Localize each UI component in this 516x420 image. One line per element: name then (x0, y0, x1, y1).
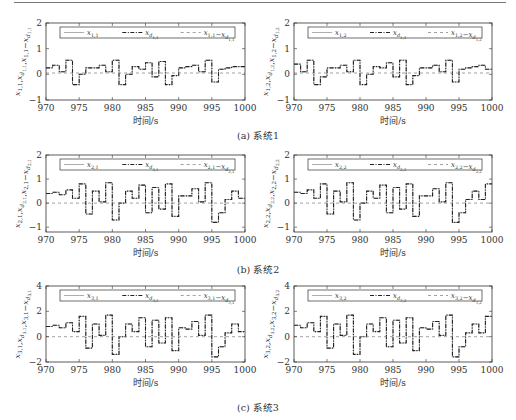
y-tick-label: −2 (277, 357, 290, 367)
x-axis-label: 时间/s (133, 247, 159, 258)
y-tick-label: 0 (284, 332, 290, 342)
y-tick-label: 2 (284, 150, 290, 160)
x-tick-label: 1000 (481, 235, 504, 245)
figure: 9709759809859909951000−1012时间/sx1,1,xd1,… (0, 0, 516, 420)
x-tick-label: 995 (203, 365, 220, 375)
x-tick-label: 985 (384, 103, 401, 113)
x-tick-label: 985 (384, 235, 401, 245)
x-tick-label: 975 (318, 103, 335, 113)
y-tick-label: 1 (284, 174, 290, 184)
y-tick-label: 0 (36, 69, 42, 79)
x-tick-label: 980 (351, 365, 368, 375)
y-axis-label: x3,1,xd3,1,x3,1−xd3,1 (13, 289, 32, 358)
legend: x2,1xd2,1x2,1−xd2,1 (60, 159, 235, 174)
chart-a-right: 9709759809859909951000−1012时间/sx1,2,xd1,… (261, 18, 504, 126)
x-axis-label: 时间/s (380, 377, 406, 388)
x-axis-label: 时间/s (380, 247, 406, 258)
caption-c: (c) 系统3 (0, 400, 516, 414)
x-tick-label: 990 (417, 365, 434, 375)
x-tick-label: 975 (318, 365, 335, 375)
x-tick-label: 985 (384, 365, 401, 375)
y-tick-label: −1 (277, 95, 290, 105)
y-tick-label: 2 (36, 150, 42, 160)
x-tick-label: 990 (417, 103, 434, 113)
legend: x3,2xd3,2x3,2−xd3,2 (308, 290, 482, 305)
x-tick-label: 975 (318, 235, 335, 245)
y-tick-label: 2 (36, 306, 42, 316)
y-tick-label: 2 (284, 306, 290, 316)
y-axis-label: x2,2,xd2,2,x2,2−xd2,2 (261, 159, 280, 228)
y-tick-label: 4 (284, 281, 290, 291)
x-axis-label: 时间/s (380, 115, 406, 126)
x-tick-label: 995 (450, 235, 467, 245)
x-tick-label: 980 (104, 365, 121, 375)
x-tick-label: 990 (170, 103, 187, 113)
series-line (46, 60, 245, 84)
x-tick-label: 970 (285, 235, 302, 245)
y-tick-label: 1 (36, 44, 42, 54)
y-tick-label: 2 (284, 18, 290, 28)
x-tick-label: 1000 (234, 235, 257, 245)
x-tick-label: 995 (203, 235, 220, 245)
y-tick-label: −1 (277, 222, 290, 232)
x-tick-label: 970 (37, 235, 54, 245)
x-tick-label: 985 (137, 365, 154, 375)
x-tick-label: 975 (71, 365, 88, 375)
y-tick-label: 0 (284, 198, 290, 208)
y-tick-label: 0 (36, 332, 42, 342)
x-tick-label: 995 (450, 365, 467, 375)
x-tick-label: 980 (351, 103, 368, 113)
y-tick-label: 1 (284, 44, 290, 54)
y-tick-label: −1 (29, 95, 42, 105)
x-tick-label: 990 (170, 365, 187, 375)
x-tick-label: 1000 (481, 103, 504, 113)
y-tick-label: 4 (36, 281, 42, 291)
legend: x1,2xd1,2x1,2−xd1,2 (308, 27, 482, 42)
y-axis-label: x2,1,xd2,1,x2,1−xd2,1 (13, 159, 32, 228)
x-tick-label: 990 (417, 235, 434, 245)
x-tick-label: 980 (104, 235, 121, 245)
y-tick-label: 2 (36, 18, 42, 28)
x-tick-label: 995 (203, 103, 220, 113)
y-axis-label: x3,2,xd3,2,x3,2−xd3,2 (261, 289, 280, 358)
x-tick-label: 985 (137, 103, 154, 113)
y-axis-label: x1,2,xd1,2,x1,2−xd1,2 (261, 27, 280, 96)
legend: x2,2xd2,2x2,2−xd2,2 (308, 159, 482, 174)
chart-c-left: 9709759809859909951000−2024时间/sx3,1,xd3,… (13, 281, 257, 388)
y-tick-label: −2 (29, 357, 42, 367)
caption-b: (b) 系统2 (0, 262, 516, 276)
x-tick-label: 990 (170, 235, 187, 245)
y-tick-label: 1 (36, 174, 42, 184)
chart-b-right: 9709759809859909951000−1012时间/sx2,2,xd2,… (261, 150, 504, 258)
legend: x1,1xd1,1x1,1−xd1,1 (60, 27, 235, 42)
x-tick-label: 980 (351, 235, 368, 245)
x-tick-label: 1000 (234, 365, 257, 375)
chart-a-left: 9709759809859909951000−1012时间/sx1,1,xd1,… (13, 18, 257, 126)
y-axis-label: x1,1,xd1,1,x1,1−xd1,1 (13, 27, 32, 96)
x-tick-label: 980 (104, 103, 121, 113)
y-tick-label: 0 (284, 69, 290, 79)
chart-c-right: 9709759809859909951000−2024时间/sx3,2,xd3,… (261, 281, 504, 388)
caption-a: (a) 系统1 (0, 128, 516, 142)
x-tick-label: 985 (137, 235, 154, 245)
x-tick-label: 1000 (234, 103, 257, 113)
x-axis-label: 时间/s (133, 377, 159, 388)
x-tick-label: 1000 (481, 365, 504, 375)
legend: x3,1xd3,1x3,1−xd3,1 (60, 290, 235, 305)
y-tick-label: 0 (36, 198, 42, 208)
chart-b-left: 9709759809859909951000−1012时间/sx2,1,xd2,… (13, 150, 257, 258)
series-line (46, 315, 245, 357)
x-axis-label: 时间/s (133, 115, 159, 126)
x-tick-label: 975 (71, 235, 88, 245)
x-tick-label: 995 (450, 103, 467, 113)
x-tick-label: 975 (71, 103, 88, 113)
y-tick-label: −1 (29, 222, 42, 232)
